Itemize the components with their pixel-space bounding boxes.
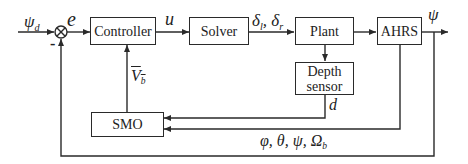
controller-label: Controller xyxy=(94,24,152,39)
output-signal-label: ψ xyxy=(428,5,439,25)
deflection-signal-label: δl, δr xyxy=(252,11,283,32)
reference-signal-label: ψd xyxy=(24,12,40,33)
ahrs-label: AHRS xyxy=(381,24,418,39)
smo-block: SMO xyxy=(91,112,164,137)
smo-label: SMO xyxy=(112,117,142,132)
error-signal-label: e xyxy=(67,8,76,31)
controller-block: Controller xyxy=(90,17,156,45)
solver-block: Solver xyxy=(189,17,249,45)
control-signal-label: u xyxy=(165,9,174,30)
depth-sensor-label-line1: Depth xyxy=(307,64,341,79)
plant-label: Plant xyxy=(310,24,339,39)
plant-block: Plant xyxy=(295,17,354,45)
solver-label: Solver xyxy=(201,24,238,39)
velocity-estimate-label: Vb xyxy=(131,67,146,86)
attitude-signal-label: φ, θ, ψ, Ωb xyxy=(260,132,327,151)
depth-sensor-block: Depth sensor xyxy=(295,62,354,95)
depth-sensor-label-line2: sensor xyxy=(307,79,343,94)
ahrs-block: AHRS xyxy=(377,17,422,45)
feedback-sign: - xyxy=(50,35,55,53)
depth-signal-label: d xyxy=(329,96,337,114)
